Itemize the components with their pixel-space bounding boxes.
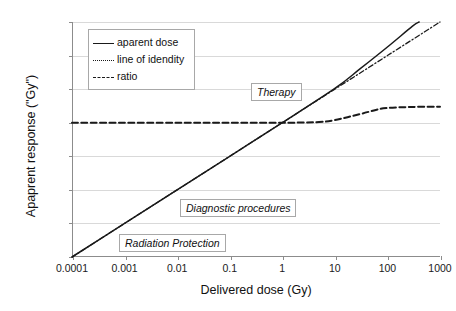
legend-item-ratio: ratio bbox=[93, 68, 189, 85]
legend-label-line-of-identity: line of idendity bbox=[117, 54, 184, 65]
x-tick-mark bbox=[73, 256, 74, 260]
x-tick-label: 0.1 bbox=[222, 262, 237, 274]
annotation-radiation-protection: Radiation Protection bbox=[119, 234, 226, 252]
chart-figure: 0.00010.0010.010.11101001000 0.00010.001… bbox=[0, 0, 456, 311]
legend-item-aparent-dose: aparent dose bbox=[93, 34, 189, 51]
y-tick-mark bbox=[69, 89, 73, 90]
legend-label-aparent-dose: aparent dose bbox=[117, 37, 178, 48]
legend-label-ratio: ratio bbox=[117, 71, 137, 82]
x-tick-label: 0.01 bbox=[167, 262, 187, 274]
x-tick-mark bbox=[178, 256, 179, 260]
x-tick-mark bbox=[441, 256, 442, 260]
legend-key-dotdash-icon bbox=[93, 55, 114, 65]
x-tick-label: 1000 bbox=[428, 262, 451, 274]
legend-item-line-of-identity: line of idendity bbox=[93, 51, 189, 68]
x-tick-label: 0.0001 bbox=[56, 262, 88, 274]
y-tick-mark bbox=[69, 156, 73, 157]
y-axis-title: Apaprent response ("Gy") bbox=[24, 21, 38, 271]
x-tick-label: 0.001 bbox=[111, 262, 137, 274]
annotation-diagnostic-procedures: Diagnostic procedures bbox=[180, 199, 296, 217]
annotation-therapy: Therapy bbox=[251, 83, 302, 101]
x-tick-label: 1 bbox=[279, 262, 285, 274]
y-tick-mark bbox=[69, 190, 73, 191]
x-tick-mark bbox=[231, 256, 232, 260]
x-tick-mark bbox=[126, 256, 127, 260]
legend-key-solid-icon bbox=[93, 38, 114, 48]
x-tick-mark bbox=[336, 256, 337, 260]
gridline bbox=[73, 123, 440, 124]
gridline bbox=[73, 156, 440, 157]
x-tick-mark bbox=[388, 256, 389, 260]
legend-key-dash-icon bbox=[93, 72, 114, 82]
x-axis-title: Delivered dose (Gy) bbox=[72, 283, 440, 297]
y-tick-mark bbox=[69, 56, 73, 57]
y-tick-mark bbox=[69, 123, 73, 124]
gridline bbox=[73, 223, 440, 224]
gridline bbox=[73, 22, 440, 23]
x-tick-label: 100 bbox=[379, 262, 397, 274]
y-tick-mark bbox=[69, 22, 73, 23]
x-tick-label: 10 bbox=[329, 262, 341, 274]
gridline bbox=[73, 190, 440, 191]
x-tick-mark bbox=[283, 256, 284, 260]
y-tick-mark bbox=[69, 223, 73, 224]
chart-legend: aparent dose line of idendity ratio bbox=[88, 29, 195, 90]
